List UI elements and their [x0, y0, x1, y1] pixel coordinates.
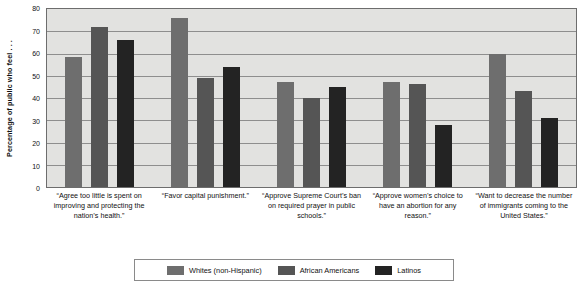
- y-axis-tick: 20: [32, 140, 40, 147]
- bar-group: [259, 9, 365, 187]
- bar-group: [47, 9, 153, 187]
- legend-label: African Americans: [300, 266, 360, 275]
- bar[interactable]: [91, 27, 108, 187]
- bar[interactable]: [409, 84, 426, 187]
- plot-area: [46, 8, 577, 188]
- bar[interactable]: [489, 54, 506, 188]
- y-axis-title-text: Percentage of public who feel . . .: [5, 40, 14, 157]
- legend-item[interactable]: African Americans: [278, 266, 360, 275]
- y-axis-tick: 80: [32, 5, 40, 12]
- bar[interactable]: [329, 87, 346, 187]
- y-axis-tick: 60: [32, 50, 40, 57]
- x-axis-category-label: “Want to decrease the number of immigran…: [471, 191, 577, 249]
- legend-item[interactable]: Latinos: [375, 266, 421, 275]
- x-axis-category-label: “Agree too little is spent on improving …: [46, 191, 152, 249]
- legend-swatch: [167, 266, 184, 275]
- y-axis-tick: 50: [32, 72, 40, 79]
- y-axis-tick: 0: [36, 185, 40, 192]
- bar[interactable]: [383, 82, 400, 187]
- x-axis-category-label: “Approve women’s choice to have an abort…: [365, 191, 471, 249]
- y-axis-title: Percentage of public who feel . . .: [0, 0, 18, 196]
- bar-chart: Percentage of public who feel . . . 0102…: [0, 0, 585, 289]
- legend-item[interactable]: Whites (non-Hispanic): [167, 266, 262, 275]
- bar[interactable]: [65, 57, 82, 187]
- y-axis-tick: 10: [32, 162, 40, 169]
- bar-group: [153, 9, 259, 187]
- bar[interactable]: [515, 91, 532, 187]
- y-axis-tick: 40: [32, 95, 40, 102]
- x-axis-category-label: “Favor capital punishment.”: [152, 191, 258, 249]
- legend-swatch: [375, 266, 392, 275]
- bar[interactable]: [303, 98, 320, 187]
- bar[interactable]: [435, 125, 452, 187]
- legend-label: Whites (non-Hispanic): [189, 266, 262, 275]
- x-axis-category-labels: “Agree too little is spent on improving …: [46, 191, 577, 249]
- bars-layer: [47, 9, 576, 187]
- legend-swatch: [278, 266, 295, 275]
- bar[interactable]: [171, 18, 188, 187]
- y-axis-tick-labels: 01020304050607080: [18, 8, 44, 188]
- bar-group: [470, 9, 576, 187]
- bar[interactable]: [541, 118, 558, 187]
- bar[interactable]: [223, 67, 240, 187]
- y-axis-tick: 70: [32, 27, 40, 34]
- legend-label: Latinos: [397, 266, 421, 275]
- bar[interactable]: [197, 78, 214, 187]
- bar[interactable]: [117, 40, 134, 187]
- legend: Whites (non-Hispanic)African AmericansLa…: [134, 259, 454, 281]
- y-axis-tick: 30: [32, 117, 40, 124]
- x-axis-category-label: “Approve Supreme Court’s ban on required…: [258, 191, 364, 249]
- bar[interactable]: [277, 82, 294, 187]
- bar-group: [364, 9, 470, 187]
